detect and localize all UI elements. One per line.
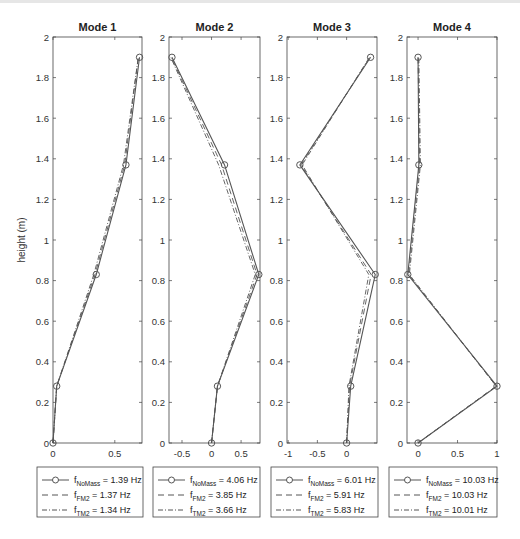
y-tick-label: 0.8 <box>390 275 403 286</box>
y-tick-label: 1.8 <box>152 72 165 83</box>
y-tick-label: 2 <box>44 32 49 43</box>
series-line-NoMass <box>300 57 375 443</box>
chart-title: Mode 2 <box>196 21 234 33</box>
y-tick-label: 0 <box>278 438 283 449</box>
plot-frame <box>287 37 377 443</box>
y-tick-label: 1.8 <box>270 72 283 83</box>
top-border-strip <box>0 0 520 3</box>
x-tick-label: 1 <box>494 448 499 459</box>
legend: fNoMass = 6.01 HzfFM2 = 5.91 HzfTM2 = 5.… <box>271 467 378 517</box>
y-tick-label: 1.4 <box>390 153 403 164</box>
y-tick-label: 0.6 <box>270 316 283 327</box>
y-tick-label: 0.6 <box>152 316 165 327</box>
chart-mode-2: Mode 200.20.40.60.811.21.41.61.82-0.500.… <box>152 21 262 517</box>
x-tick-label: 0.5 <box>451 448 464 459</box>
x-tick-label: 0.5 <box>234 448 247 459</box>
legend: fNoMass = 10.03 HzfFM2 = 10.03 HzfTM2 = … <box>389 467 499 517</box>
y-tick-label: 1 <box>44 235 49 246</box>
y-tick-label: 0.8 <box>270 275 283 286</box>
y-tick-label: 0.6 <box>390 316 403 327</box>
y-tick-label: 0.8 <box>36 275 49 286</box>
y-tick-label: 0 <box>160 438 165 449</box>
y-tick-label: 1 <box>160 235 165 246</box>
legend: fNoMass = 1.39 HzfFM2 = 1.37 HzfTM2 = 1.… <box>37 467 143 517</box>
y-tick-label: 2 <box>278 32 283 43</box>
y-tick-label: 0.8 <box>152 275 165 286</box>
chart-title: Mode 1 <box>79 21 117 33</box>
mode-shape-charts: Mode 100.20.40.60.811.21.41.61.8200.5hei… <box>0 0 520 539</box>
chart-mode-1: Mode 100.20.40.60.811.21.41.61.8200.5hei… <box>16 21 143 517</box>
y-tick-label: 0.4 <box>270 356 283 367</box>
y-tick-label: 0.4 <box>390 356 403 367</box>
y-tick-label: 1 <box>278 235 283 246</box>
x-tick-label: -0.5 <box>174 448 190 459</box>
y-axis-label: height (m) <box>16 217 27 262</box>
x-tick-label: -1 <box>284 448 292 459</box>
chart-title: Mode 4 <box>433 21 472 33</box>
series-line-NoMass <box>408 57 497 443</box>
chart-mode-4: Mode 400.20.40.60.811.21.41.61.8200.51fN… <box>389 21 500 517</box>
y-tick-label: 1.6 <box>390 113 403 124</box>
series-line-NoMass <box>53 57 140 443</box>
series-line-FM2 <box>409 57 497 443</box>
y-tick-label: 0.4 <box>152 356 165 367</box>
y-tick-label: 1 <box>398 235 403 246</box>
chart-title: Mode 3 <box>313 21 351 33</box>
x-tick-label: 0 <box>415 448 420 459</box>
y-tick-label: 1.2 <box>390 194 403 205</box>
y-tick-label: 1.4 <box>36 153 49 164</box>
series-line-NoMass <box>172 57 259 443</box>
series-line-FM2 <box>53 57 138 443</box>
x-tick-label: 0 <box>344 448 349 459</box>
x-tick-label: 0 <box>50 448 55 459</box>
series-line-FM2 <box>301 57 371 443</box>
y-tick-label: 0.6 <box>36 316 49 327</box>
y-tick-label: 1.2 <box>152 194 165 205</box>
plot-frame <box>53 37 142 443</box>
y-tick-label: 0.2 <box>390 397 403 408</box>
mode-shapes-figure: Mode 100.20.40.60.811.21.41.61.8200.5hei… <box>0 0 520 539</box>
legend: fNoMass = 4.06 HzfFM2 = 3.85 HzfTM2 = 3.… <box>153 467 260 517</box>
y-tick-label: 1.6 <box>36 113 49 124</box>
y-tick-label: 2 <box>160 32 165 43</box>
y-tick-label: 1.6 <box>152 113 165 124</box>
plot-frame <box>407 37 497 443</box>
y-tick-label: 1.2 <box>270 194 283 205</box>
series-line-TM2 <box>409 57 496 443</box>
y-tick-label: 1.2 <box>36 194 49 205</box>
y-tick-label: 0.2 <box>152 397 165 408</box>
figure-caption-cutoff <box>10 528 510 539</box>
y-tick-label: 0.2 <box>36 397 49 408</box>
y-tick-label: 1.8 <box>390 72 403 83</box>
x-tick-label: 0.5 <box>108 448 121 459</box>
y-tick-label: 0 <box>44 438 49 449</box>
y-tick-label: 1.4 <box>270 153 283 164</box>
y-tick-label: 1.8 <box>36 72 49 83</box>
y-tick-label: 2 <box>398 32 403 43</box>
series-line-TM2 <box>302 57 369 443</box>
x-tick-label: -0.5 <box>309 448 325 459</box>
series-line-TM2 <box>53 57 138 443</box>
y-tick-label: 1.4 <box>152 153 165 164</box>
y-tick-label: 0.4 <box>36 356 49 367</box>
y-tick-label: 0.2 <box>270 397 283 408</box>
y-tick-label: 0 <box>398 438 403 449</box>
y-tick-label: 1.6 <box>270 113 283 124</box>
chart-mode-3: Mode 300.20.40.60.811.21.41.61.82-1-0.50… <box>270 21 379 517</box>
x-tick-label: 0 <box>209 448 214 459</box>
series-line-TM2 <box>171 57 256 443</box>
